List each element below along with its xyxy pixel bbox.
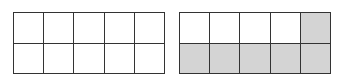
shaded-cell bbox=[210, 44, 239, 74]
empty-cell bbox=[105, 44, 134, 74]
shaded-cell bbox=[271, 44, 300, 74]
empty-cell bbox=[74, 13, 103, 43]
shaded-cell bbox=[240, 44, 269, 74]
grid-left bbox=[13, 12, 165, 74]
grid-right bbox=[179, 12, 331, 74]
empty-cell bbox=[240, 13, 269, 43]
empty-cell bbox=[44, 44, 73, 74]
empty-cell bbox=[180, 13, 209, 43]
empty-cell bbox=[14, 44, 43, 74]
empty-cell bbox=[271, 13, 300, 43]
empty-cell bbox=[44, 13, 73, 43]
empty-cell bbox=[14, 13, 43, 43]
empty-cell bbox=[135, 44, 164, 74]
empty-cell bbox=[105, 13, 134, 43]
empty-cell bbox=[135, 13, 164, 43]
shaded-cell bbox=[301, 44, 330, 74]
empty-cell bbox=[74, 44, 103, 74]
empty-cell bbox=[210, 13, 239, 43]
shaded-cell bbox=[301, 13, 330, 43]
shaded-cell bbox=[180, 44, 209, 74]
